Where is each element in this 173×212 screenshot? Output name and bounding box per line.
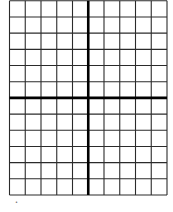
coordinate-grid [0, 0, 173, 212]
axes [10, 1, 168, 195]
footer-mark: • [15, 200, 18, 205]
